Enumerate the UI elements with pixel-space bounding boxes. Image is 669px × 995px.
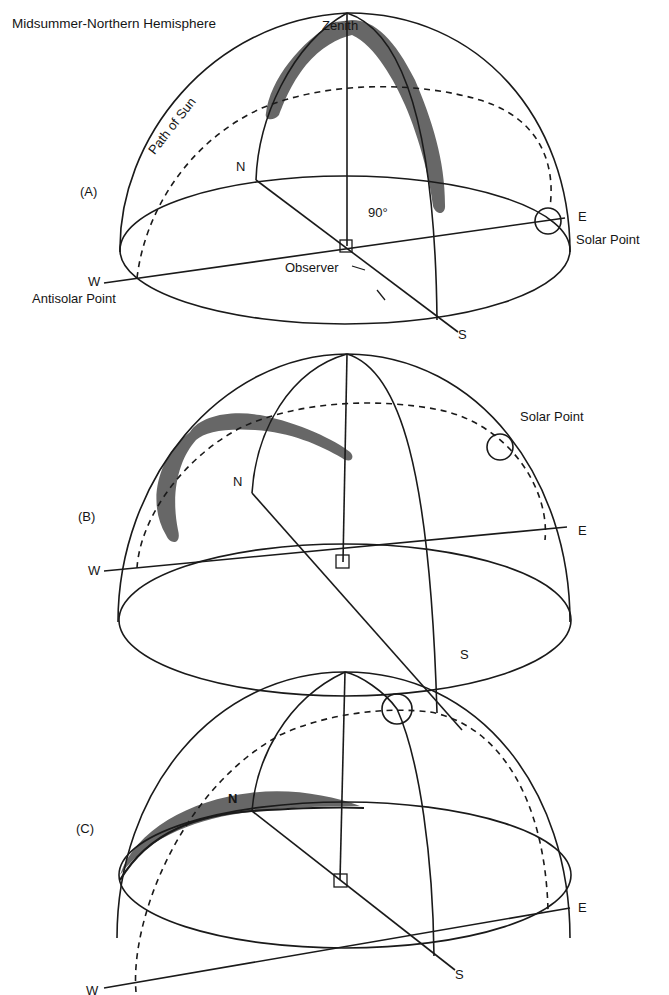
panel-a-angle-label: 90° (368, 206, 388, 219)
panel-b-solar-point-label: Solar Point (520, 410, 584, 423)
panel-b-east-label: E (578, 524, 587, 537)
panel-b-south-label: S (460, 648, 469, 661)
sky-dome-diagram (0, 0, 669, 995)
panel-a-label: (A) (80, 185, 97, 198)
panel-c-north-label: N (228, 792, 237, 805)
panel-c-dome (104, 672, 571, 992)
panel-a-south-label: S (458, 328, 467, 341)
panel-a-east-label: E (578, 210, 587, 223)
panel-b-dome (104, 354, 571, 730)
panel-b-label: (B) (78, 510, 95, 523)
panel-a-north-label: N (236, 160, 245, 173)
panel-b-solar-point-marker (487, 434, 513, 460)
panel-a-solar-point-label: Solar Point (576, 233, 640, 246)
panel-b-west-label: W (88, 564, 100, 577)
panel-c-label: (C) (76, 822, 94, 835)
panel-c-east-label: E (578, 901, 587, 914)
panel-a-observer-label: Observer (285, 261, 338, 274)
panel-a-antisolar-point-label: Antisolar Point (32, 292, 116, 305)
panel-b-north-label: N (233, 475, 242, 488)
panel-b-polarization-band (156, 413, 352, 542)
panel-a-polarization-band (266, 20, 445, 213)
panel-c-west-label: W (86, 984, 98, 995)
panel-c-polarization-band (120, 791, 360, 875)
panel-c-south-label: S (455, 968, 464, 981)
figure-title: Midsummer-Northern Hemisphere (12, 17, 216, 31)
panel-a-west-label: W (88, 275, 100, 288)
panel-a-zenith-label: Zenith (322, 19, 358, 32)
panel-a-dome (104, 13, 570, 332)
